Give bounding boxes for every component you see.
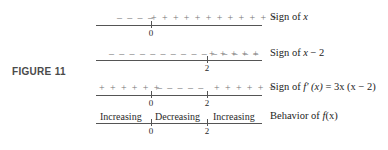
increasing-right-label: Increasing — [213, 111, 255, 122]
desc-post: = 3x (x − 2) — [323, 81, 376, 92]
desc-text: Sign of — [270, 11, 303, 22]
desc-post: − 2 — [308, 47, 324, 58]
number-line — [96, 123, 262, 124]
behavior-row: Increasing Decreasing Increasing 0 2 Beh… — [0, 99, 388, 129]
tick-0 — [151, 91, 152, 98]
row-description: Sign of f′ (x) = 3x (x − 2) — [270, 81, 376, 92]
desc-var: x — [303, 11, 308, 22]
sign-of-derivative-row: + + + + + + – – – – – + + + + + + 0 2 Si… — [0, 70, 388, 100]
positive-signs: + + + + + + + + + + + + — [151, 12, 278, 23]
sign-of-x-minus-2-row: – – – – – – – – – – – – – – – + + + + + … — [0, 35, 388, 65]
sign-of-x-row: – – – – + + + + + + + + + + + + 0 Sign o… — [0, 0, 388, 30]
tick-0 — [151, 119, 152, 126]
desc-post: (x) — [325, 110, 337, 121]
number-line — [96, 95, 262, 96]
tick-label-0: 0 — [145, 126, 157, 136]
positive-signs: + + + + + — [209, 48, 260, 59]
tick-2 — [207, 119, 208, 126]
increasing-left-label: Increasing — [100, 111, 142, 122]
tick-2 — [207, 91, 208, 98]
negative-signs-middle: – – – – – — [157, 82, 205, 93]
tick-label-2: 2 — [201, 126, 213, 136]
decreasing-label: Decreasing — [155, 111, 200, 122]
row-description: Behavior of f(x) — [270, 110, 338, 121]
row-description: Sign of x — [270, 11, 308, 22]
desc-text: Sign of — [270, 81, 303, 92]
desc-var: f′ (x) — [303, 81, 323, 92]
desc-text: Behavior of — [270, 110, 323, 121]
positive-signs-right: + + + + + + — [214, 82, 276, 93]
tick-2 — [207, 56, 208, 63]
number-line — [96, 60, 262, 61]
tick-0 — [151, 21, 152, 28]
negative-signs: – – – – — [117, 12, 154, 23]
row-description: Sign of x − 2 — [270, 47, 324, 58]
number-line — [96, 25, 262, 26]
desc-text: Sign of — [270, 47, 303, 58]
